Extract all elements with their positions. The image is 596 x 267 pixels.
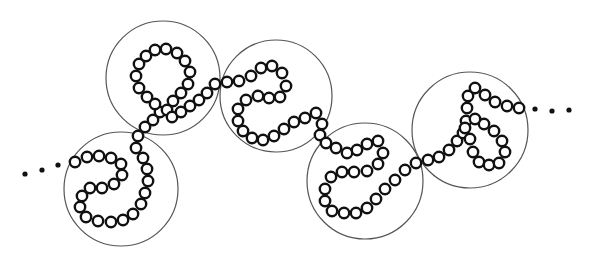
monomer-bead (327, 206, 337, 216)
monomer-bead (500, 147, 510, 157)
monomer-bead (140, 188, 150, 198)
monomer-bead (465, 134, 475, 144)
ellipsis-dot (549, 108, 554, 113)
monomer-bead (470, 83, 480, 93)
monomer-bead (352, 145, 362, 155)
monomer-bead (161, 44, 171, 54)
monomer-bead (93, 216, 103, 226)
monomer-bead (202, 88, 212, 98)
monomer-bead (247, 133, 257, 143)
polymer-blob-diagram (0, 0, 596, 267)
monomer-bead (380, 184, 390, 194)
monomer-bead (253, 91, 263, 101)
monomer-bead (378, 148, 388, 158)
monomer-bead (131, 71, 141, 81)
monomer-bead (258, 135, 268, 145)
blob-circle (64, 132, 178, 246)
monomer-bead (210, 79, 220, 89)
bead-chain (70, 44, 524, 227)
monomer-bead (75, 202, 85, 212)
monomer-bead (281, 81, 291, 91)
monomer-bead (320, 196, 330, 206)
monomer-bead (128, 209, 138, 219)
monomer-bead (390, 175, 400, 185)
monomer-bead (246, 71, 256, 81)
monomer-bead (460, 123, 470, 133)
monomer-bead (317, 119, 327, 129)
monomer-bead (337, 167, 347, 177)
monomer-bead (502, 101, 512, 111)
monomer-bead (331, 143, 341, 153)
monomer-bead (444, 145, 454, 155)
monomer-bead (279, 124, 289, 134)
monomer-bead (300, 113, 310, 123)
monomer-bead (180, 56, 190, 66)
monomer-bead (470, 114, 480, 124)
monomer-bead (241, 95, 251, 105)
monomer-bead (289, 117, 299, 127)
monomer-bead (142, 92, 152, 102)
blob-circle (106, 21, 220, 135)
monomer-bead (277, 68, 287, 78)
monomer-bead (142, 164, 152, 174)
monomer-bead (362, 203, 372, 213)
monomer-bead (339, 208, 349, 218)
monomer-bead (462, 103, 472, 113)
monomer-bead (136, 199, 146, 209)
monomer-bead (117, 170, 127, 180)
monomer-bead (150, 45, 160, 55)
ellipsis-dot (22, 171, 27, 176)
monomer-bead (362, 139, 372, 149)
monomer-bead (362, 166, 372, 176)
monomer-bead (233, 116, 243, 126)
monomer-bead (81, 212, 91, 222)
monomer-bead (143, 176, 153, 186)
monomer-bead (269, 131, 279, 141)
monomer-bead (116, 159, 126, 169)
monomer-bead (351, 208, 361, 218)
monomer-bead (138, 153, 148, 163)
diagram-canvas (0, 0, 596, 267)
monomer-bead (185, 67, 195, 77)
monomer-bead (494, 158, 504, 168)
monomer-bead (423, 155, 433, 165)
monomer-bead (109, 179, 119, 189)
monomer-bead (267, 61, 277, 71)
monomer-bead (275, 92, 285, 102)
monomer-bead (480, 90, 490, 100)
ellipsis-dot (532, 106, 537, 111)
monomer-bead (106, 153, 116, 163)
monomer-bead (134, 83, 144, 93)
monomer-bead (490, 97, 500, 107)
monomer-bead (373, 136, 383, 146)
monomer-bead (94, 151, 104, 161)
monomer-bead (497, 136, 507, 146)
monomer-bead (106, 217, 116, 227)
monomer-bead (489, 126, 499, 136)
monomer-bead (311, 108, 321, 118)
monomer-bead (373, 159, 383, 169)
monomer-bead (400, 165, 410, 175)
monomer-bead (131, 143, 141, 153)
monomer-bead (349, 167, 359, 177)
monomer-bead (234, 76, 244, 86)
monomer-bead (82, 152, 92, 162)
monomer-bead (326, 172, 336, 182)
monomer-bead (70, 157, 80, 167)
monomer-bead (371, 194, 381, 204)
monomer-bead (264, 93, 274, 103)
monomer-bead (411, 158, 421, 168)
monomer-bead (321, 138, 331, 148)
monomer-bead (320, 184, 330, 194)
monomer-bead (256, 63, 266, 73)
monomer-bead (222, 77, 232, 87)
monomer-bead (118, 215, 128, 225)
ellipsis-dot (566, 107, 571, 112)
ellipsis-dot (55, 162, 60, 167)
monomer-bead (434, 152, 444, 162)
monomer-bead (468, 147, 478, 157)
monomer-bead (514, 103, 524, 113)
monomer-bead (77, 191, 87, 201)
ellipsis-dot (39, 167, 44, 172)
monomer-bead (233, 104, 243, 114)
